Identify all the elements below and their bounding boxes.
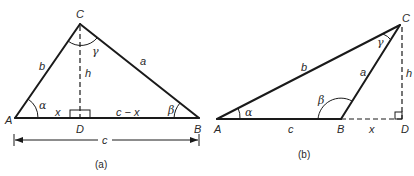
vertex-a-label: A (4, 114, 12, 126)
vertex-c-label: C (402, 12, 410, 24)
segment-x-label: x (368, 123, 375, 135)
vertex-b-label: B (337, 123, 344, 135)
angle-alpha-label: α (245, 106, 253, 119)
angle-alpha-label: α (39, 99, 47, 112)
figure-a: C A B D b a h x c − x c α β γ (a) (4, 8, 201, 170)
side-b-label: b (301, 61, 307, 73)
dimension-c-label: c (102, 134, 108, 146)
vertex-a-label: A (213, 123, 221, 135)
angle-beta-label: β (317, 94, 324, 107)
right-angle-marker (395, 112, 402, 119)
figure-b: C A B D b a c h x α β γ (b) (213, 12, 412, 160)
angle-beta-label: β (167, 104, 174, 117)
side-b-label: b (39, 60, 45, 72)
altitude-h-label: h (406, 67, 412, 79)
angle-alpha-arc (28, 99, 38, 118)
angle-gamma-arc (383, 34, 391, 40)
segment-x-label: x (54, 106, 61, 118)
angle-beta-arc (174, 103, 180, 118)
side-a (80, 24, 199, 118)
angle-gamma-label: γ (92, 45, 99, 58)
side-b (217, 25, 400, 119)
side-a-label: a (140, 55, 146, 67)
angle-alpha-arc (238, 108, 240, 119)
vertex-d-label: D (401, 123, 409, 135)
side-a-label: a (360, 66, 366, 78)
vertex-d-label: D (76, 123, 84, 135)
segment-c-minus-x-label: c − x (116, 106, 140, 118)
altitude-h-label: h (85, 67, 91, 79)
figure-b-caption: (b) (298, 149, 310, 160)
angle-gamma-label: γ (377, 36, 384, 49)
side-b (15, 24, 80, 118)
figure-a-caption: (a) (95, 159, 107, 170)
vertex-c-label: C (76, 8, 84, 20)
side-c-label: c (288, 123, 294, 135)
triangle-diagrams: C A B D b a h x c − x c α β γ (a) C A B … (0, 0, 414, 176)
vertex-b-label: B (194, 123, 201, 135)
